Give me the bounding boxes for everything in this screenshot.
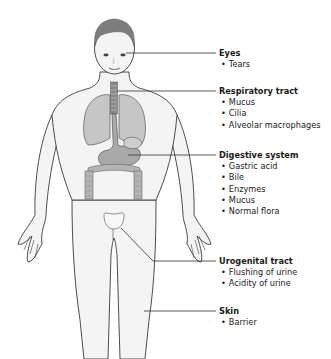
label-item: Cilia: [219, 108, 320, 119]
label-item: Flushing of urine: [219, 267, 297, 278]
label-skin: Skin Barrier: [219, 306, 257, 328]
label-title-urogenital: Urogenital tract: [219, 256, 297, 267]
liver: [124, 137, 142, 149]
label-item: Alveolar macrophages: [219, 120, 320, 131]
label-item: Bile: [219, 172, 298, 183]
label-urogenital: Urogenital tract Flushing of urine Acidi…: [219, 256, 297, 290]
label-title-eyes: Eyes: [219, 48, 250, 59]
label-item: Enzymes: [219, 184, 298, 195]
label-item: Mucus: [219, 195, 298, 206]
label-item: Normal flora: [219, 206, 298, 217]
label-title-respiratory: Respiratory tract: [219, 86, 320, 97]
body-outline: [18, 22, 211, 359]
label-item: Tears: [219, 59, 250, 70]
label-title-skin: Skin: [219, 306, 257, 317]
label-respiratory: Respiratory tract Mucus Cilia Alveolar m…: [219, 86, 320, 131]
label-eyes: Eyes Tears: [219, 48, 250, 70]
label-item: Barrier: [219, 317, 257, 328]
label-item: Acidity of urine: [219, 278, 297, 289]
label-digestive: Digestive system Gastric acid Bile Enzym…: [219, 150, 298, 217]
label-title-digestive: Digestive system: [219, 150, 298, 161]
label-item: Mucus: [219, 97, 320, 108]
label-item: Gastric acid: [219, 161, 298, 172]
